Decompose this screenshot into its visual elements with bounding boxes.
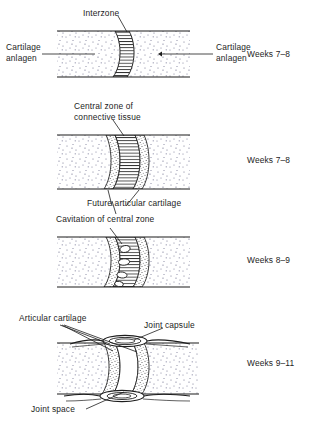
stage-label-panel-2: Weeks 7–8 bbox=[247, 155, 290, 166]
label-interzone: Interzone bbox=[83, 8, 119, 19]
stage-label-panel-4: Weeks 9–11 bbox=[247, 358, 294, 369]
panel-1-drawing bbox=[42, 16, 213, 77]
label-central-zone-1: Central zone of bbox=[74, 101, 133, 112]
stage-label-panel-3: Weeks 8–9 bbox=[247, 255, 290, 266]
label-cartilage-anlagen-right-1: Cartilage bbox=[216, 42, 251, 53]
label-central-zone-2: connective tissue bbox=[74, 112, 141, 123]
label-cartilage-anlagen-left-1: Cartilage bbox=[6, 42, 41, 53]
label-cartilage-anlagen-right-2: anlagen bbox=[216, 53, 247, 64]
leader-interzone bbox=[118, 16, 127, 32]
label-cartilage-anlagen-left-2: anlagen bbox=[6, 53, 37, 64]
label-cavitation-of-central-zone: Cavitation of central zone bbox=[56, 214, 154, 225]
label-joint-space: Joint space bbox=[31, 404, 75, 415]
panel-2-drawing bbox=[57, 120, 190, 206]
label-future-articular-cartilage: Future articular cartilage bbox=[87, 198, 181, 209]
panel-4-drawing bbox=[57, 325, 199, 409]
label-joint-capsule: Joint capsule bbox=[144, 320, 195, 331]
joint-development-figure: Interzone Cartilage anlagen Cartilage an… bbox=[0, 0, 313, 428]
stage-label-panel-1: Weeks 7–8 bbox=[247, 49, 290, 60]
label-articular-cartilage: Articular cartilage bbox=[19, 313, 87, 324]
